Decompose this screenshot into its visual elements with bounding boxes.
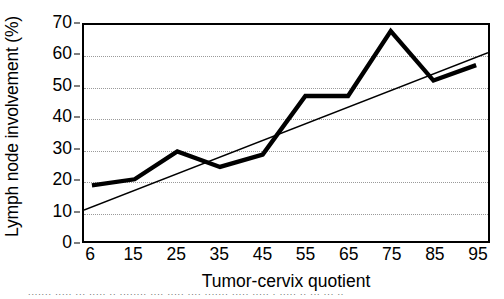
y-tick-mark [74,211,80,212]
y-tick-label: 0 [62,234,72,252]
y-axis-title-text: Lymph node involvement (%) [2,16,23,237]
x-tick-label: 25 [166,246,185,264]
x-tick-label: 75 [382,246,401,264]
y-tick-label: 60 [53,46,72,64]
y-tick-label: 40 [53,109,72,127]
x-tick-label: 6 [85,246,95,264]
x-tick-label: 85 [425,246,444,264]
x-tick-label: 65 [339,246,358,264]
y-axis-title: Lymph node involvement (%) [0,0,24,252]
series-svg [84,25,488,241]
y-tick-label: 70 [53,14,72,32]
y-tick-label: 10 [53,203,72,221]
y-tick-label: 20 [53,171,72,189]
clipped-caption-text: ....... ..... ... ..... .. ........ ....… [28,292,344,297]
x-tick-label: 35 [210,246,229,264]
data-line [92,31,476,185]
y-tick-mark [74,117,80,118]
figure-container: Lymph node involvement (%) 0102030405060… [0,0,504,299]
plot-area [82,23,490,243]
x-axis-title: Tumor-cervix quotient [82,271,490,292]
x-tick-label: 15 [123,246,142,264]
y-tick-mark [74,243,80,244]
y-tick-mark [74,148,80,149]
y-tick-mark [74,54,80,55]
x-tick-label: 95 [468,246,487,264]
y-tick-label: 50 [53,77,72,95]
y-tick-label: 30 [53,140,72,158]
x-axis-tick-labels: 6152535455565758595 [82,246,490,272]
clipped-caption: ....... ..... ... ..... .. ........ ....… [0,292,504,299]
y-axis-tick-labels: 010203040506070 [24,0,80,299]
x-tick-label: 45 [253,246,272,264]
x-tick-label: 55 [296,246,315,264]
y-tick-mark [74,23,80,24]
y-tick-mark [74,85,80,86]
y-tick-mark [74,180,80,181]
